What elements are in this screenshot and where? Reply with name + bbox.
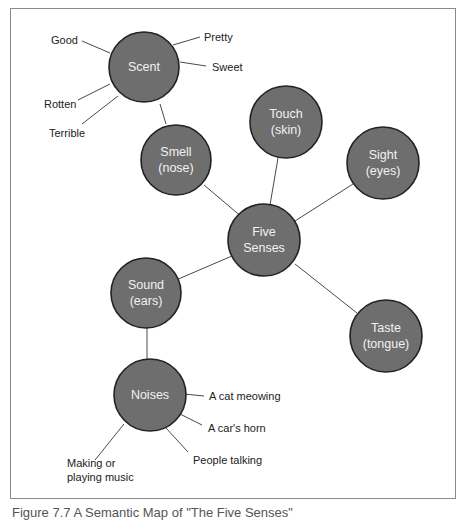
leaf-pretty: Pretty	[204, 31, 233, 43]
edge-noises-talking	[166, 428, 188, 452]
svg-text:Touch: Touch	[269, 107, 302, 121]
node-sound: Sound (ears)	[111, 258, 181, 328]
edge-five-smell	[204, 185, 243, 218]
svg-text:(ears): (ears)	[130, 294, 163, 308]
leaf-car-horn: A car's horn	[208, 422, 266, 434]
svg-text:Smell: Smell	[160, 145, 191, 159]
svg-text:Senses: Senses	[243, 241, 285, 255]
svg-text:(eyes): (eyes)	[366, 164, 401, 178]
svg-text:(nose): (nose)	[158, 161, 193, 175]
leaf-music-line1: Making or	[67, 457, 116, 469]
edge-five-sight	[295, 184, 353, 221]
leaf-music-line2: playing music	[67, 471, 134, 483]
edge-noises-horn	[180, 414, 202, 425]
node-touch: Touch (skin)	[250, 86, 322, 158]
edge-smell-scent	[160, 104, 166, 124]
edge-scent-pretty	[173, 37, 200, 45]
figure-caption: Figure 7.7 A Semantic Map of "The Five S…	[12, 505, 293, 520]
node-sight: Sight (eyes)	[347, 127, 419, 199]
edge-five-taste	[295, 264, 357, 313]
node-taste: Taste (tongue)	[350, 300, 422, 372]
svg-text:Sight: Sight	[369, 148, 398, 162]
node-five-senses: Five Senses	[228, 204, 300, 276]
leaf-people-talking: People talking	[193, 454, 262, 466]
svg-text:Five: Five	[252, 225, 276, 239]
leaf-rotten: Rotten	[44, 98, 76, 110]
svg-text:Sound: Sound	[128, 278, 164, 292]
edge-noises-music	[95, 424, 124, 460]
edge-scent-sweet	[180, 62, 206, 66]
node-scent: Scent	[109, 32, 179, 102]
edge-noises-cat	[184, 394, 204, 396]
svg-text:Scent: Scent	[128, 60, 160, 74]
svg-text:(tongue): (tongue)	[363, 337, 410, 351]
edge-scent-rotten	[78, 84, 110, 100]
node-noises: Noises	[114, 359, 186, 431]
leaf-sweet: Sweet	[212, 61, 243, 73]
svg-text:(skin): (skin)	[271, 123, 302, 137]
leaf-terrible: Terrible	[49, 127, 85, 139]
svg-text:Taste: Taste	[371, 321, 401, 335]
edge-scent-terrible	[82, 96, 118, 124]
svg-text:Noises: Noises	[131, 388, 169, 402]
edge-five-sound	[176, 256, 232, 280]
leaf-cat-meowing: A cat meowing	[209, 390, 281, 402]
leaf-good: Good	[51, 34, 78, 46]
node-smell: Smell (nose)	[141, 125, 211, 195]
edge-five-touch	[270, 158, 278, 205]
edge-scent-good	[82, 41, 110, 53]
